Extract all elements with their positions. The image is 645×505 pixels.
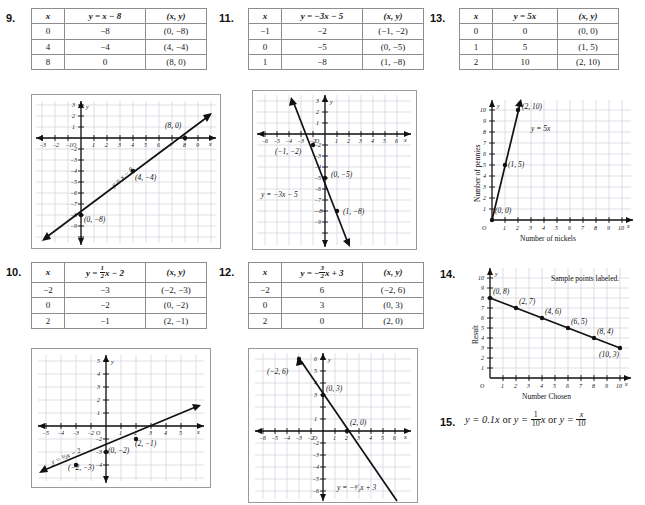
table-row: 0 −8 (0, −8) (32, 24, 207, 39)
point-label-2-neg1: (2, −1) (135, 439, 156, 448)
svg-text:3: 3 (482, 184, 486, 190)
eq-prefix: y = (86, 268, 100, 278)
table-header-row: x y = 5x (x, y) (460, 9, 619, 24)
table-row: 4 −4 (4, −4) (32, 39, 207, 54)
point-label-2-0: (2, 0) (350, 418, 366, 427)
svg-text:−6: −6 (312, 488, 319, 494)
cell-y: −1 (65, 313, 146, 328)
col-header-xy: (x, y) (363, 9, 424, 24)
svg-text:8: 8 (481, 295, 484, 301)
svg-text:4: 4 (481, 335, 484, 341)
or-1: or (500, 414, 514, 425)
table-row: 0 −5 (0, −5) (249, 39, 424, 54)
table-header-row: x y = 12x − 2 (x, y) (32, 263, 207, 283)
problem-11-graph: −6−5−4 −3−2 123 456 321 −2−3−4 −5−6−7 —8… (252, 90, 417, 250)
svg-text:1: 1 (501, 383, 504, 389)
svg-text:−3: −3 (95, 449, 102, 455)
cell-pair: (0, −2) (146, 298, 207, 313)
point-label-1-5: (1, 5) (508, 160, 524, 169)
line-arrow-end (203, 113, 212, 122)
svg-text:3: 3 (526, 383, 530, 389)
cell-x: −1 (249, 24, 282, 39)
data-point (503, 163, 507, 167)
cell-pair: (4, −4) (146, 39, 207, 54)
cell-pair: (0, 3) (363, 298, 424, 313)
svg-text:6: 6 (566, 383, 569, 389)
problem-15-number: 15. (440, 416, 455, 428)
svg-text:3: 3 (480, 345, 484, 351)
sample-points-note: Sample points labeled. (551, 274, 619, 283)
table-row: −2 6 (−2, 6) (249, 283, 424, 298)
svg-text:2: 2 (483, 195, 486, 201)
svg-text:1: 1 (72, 124, 75, 130)
col-header-equation: y = 5x (493, 9, 558, 24)
point-label-0-3: (0, 3) (326, 384, 342, 393)
cell-pair: (2, 0) (363, 313, 424, 328)
cell-pair: (2, −1) (146, 313, 207, 328)
svg-text:4: 4 (371, 138, 374, 144)
answer-form-1: y = 0.1x (465, 414, 500, 425)
svg-text:x: x (403, 434, 407, 440)
eq-prefix: y = − (300, 268, 319, 278)
svg-text:−2: −2 (52, 142, 59, 148)
cell-pair: (2, 10) (558, 55, 619, 70)
col-header-x: x (249, 9, 282, 24)
svg-text:−4: −4 (285, 138, 292, 144)
x-axis-title: Number of nickels (520, 234, 576, 243)
svg-text:5: 5 (553, 383, 556, 389)
svg-text:1: 1 (97, 410, 100, 416)
point-label-neg2-neg3: (−2, −3) (68, 463, 94, 472)
cell-x: 2 (249, 313, 282, 328)
fraction-x-over-ten: x10 (576, 411, 586, 428)
cell-y: 10 (493, 55, 558, 70)
svg-text:10: 10 (616, 383, 622, 389)
cell-x: 4 (32, 39, 65, 54)
cell-x: −2 (32, 283, 65, 298)
svg-text:5: 5 (383, 138, 386, 144)
y-axis-title: Number of pennies (473, 145, 482, 202)
line-arrow-start (39, 465, 48, 473)
col-header-xy: (x, y) (363, 263, 424, 283)
problem-12: 12. (219, 262, 234, 280)
fraction-denominator: 10 (531, 420, 541, 428)
problem-13-graph: 123 456 789 10 1098 765 432 1 O xy (0, 0… (465, 94, 640, 249)
data-point (490, 218, 494, 222)
table-header-row: x y = −3x − 5 (x, y) (249, 9, 424, 24)
graph-10-svg: −5−4−3 −2 123 45 543 21 −2−3−4 O xy (32, 349, 210, 487)
problem-10-number: 10. (6, 266, 21, 278)
problem-9-table: x y = x − 8 (x, y) 0 −8 (0, −8) 4 −4 (4,… (31, 8, 207, 70)
cell-x: 1 (460, 39, 493, 54)
svg-text:−6: −6 (314, 186, 321, 192)
problem-10-graph: −5−4−3 −2 123 45 543 21 −2−3−4 O xy (−2,… (31, 348, 211, 488)
svg-text:2: 2 (514, 383, 517, 389)
table-row: 2 0 (2, 0) (249, 313, 424, 328)
problem-11-table: x y = −3x − 5 (x, y) −1 −2 (−1, −2) 0 −5… (248, 8, 424, 70)
svg-text:y: y (110, 359, 114, 365)
svg-text:7: 7 (581, 225, 585, 231)
svg-text:10: 10 (478, 275, 484, 281)
table-header-row: x y = x − 8 (x, y) (32, 9, 207, 24)
svg-text:5: 5 (179, 430, 182, 436)
svg-text:O: O (96, 430, 101, 436)
svg-text:−2: −2 (87, 430, 94, 436)
graph-14-svg: 123 456 789 10 1098 765 432 1 O xy (465, 262, 640, 407)
svg-text:−2: −2 (95, 436, 102, 442)
svg-text:1: 1 (335, 138, 338, 144)
point-label-8-4: (8, 4) (597, 327, 613, 336)
data-point (323, 176, 327, 180)
col-header-equation: y = −32x + 3 (282, 263, 363, 283)
svg-text:x: x (208, 141, 212, 147)
svg-text:−6: −6 (70, 190, 77, 196)
svg-text:−4: −4 (57, 430, 64, 436)
svg-text:y: y (329, 99, 333, 105)
table-row: 1 5 (1, 5) (460, 39, 619, 54)
svg-text:3: 3 (356, 435, 360, 441)
data-point (540, 316, 544, 320)
point-label-2-10: (2, 10) (522, 102, 542, 111)
problem-10: 10. (6, 262, 21, 280)
svg-text:5: 5 (555, 225, 558, 231)
svg-text:9: 9 (196, 142, 199, 148)
cell-y: −2 (282, 24, 363, 39)
svg-text:6: 6 (568, 225, 571, 231)
col-header-x: x (32, 9, 65, 24)
